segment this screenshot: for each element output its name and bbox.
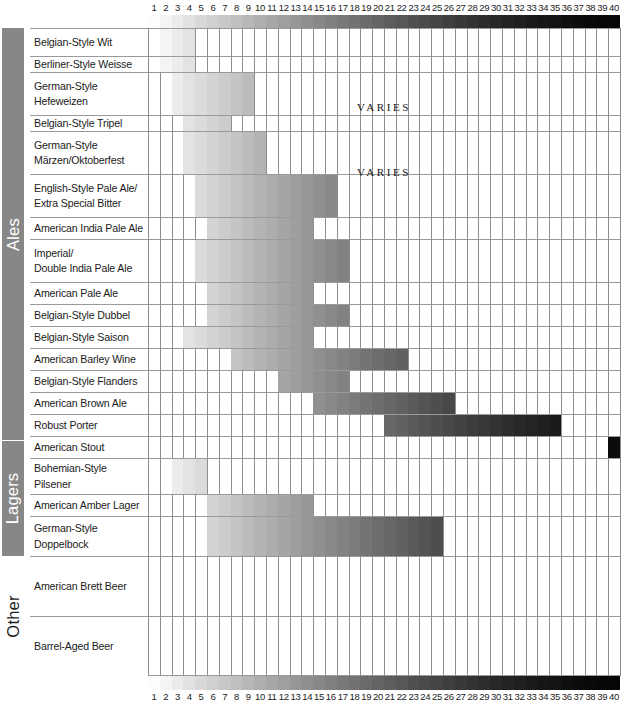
bar-segment-american-amber-lager-srm-13 (290, 495, 301, 516)
srm-swatch-32 (514, 676, 526, 690)
srm-swatch-21 (384, 15, 396, 28)
srm-swatch-26 (443, 15, 455, 28)
axis-tick-7: 7 (219, 1, 231, 15)
row-label-line1-american-stout: American Stout (34, 440, 104, 456)
bar-segment-belgian-style-dubbel-srm-10 (254, 305, 266, 326)
axis-tick-22: 22 (396, 690, 408, 704)
bar-segment-american-stout-srm-40 (608, 437, 620, 458)
bar-segment-belgian-style-dubbel-srm-11 (266, 305, 278, 326)
row-label-text-american-barley-wine: American Barley Wine (34, 352, 136, 368)
srm-swatch-14 (301, 676, 313, 690)
srm-swatch-40 (608, 676, 620, 690)
axis-tick-9: 9 (242, 690, 254, 704)
bar-segment-berliner-style-weisse-srm-3 (172, 57, 183, 72)
axis-tick-6: 6 (207, 1, 219, 15)
axis-tick-5: 5 (195, 690, 207, 704)
srm-swatch-3 (172, 15, 184, 28)
srm-gradient-strip-top (148, 15, 620, 28)
bar-segment-american-brown-ale-srm-23 (408, 393, 419, 414)
srm-swatch-21 (384, 676, 396, 690)
bar-segment-american-pale-ale-srm-12 (278, 283, 290, 304)
bar-segment-belgian-style-flanders-srm-15 (313, 371, 325, 392)
srm-swatch-4 (183, 15, 195, 28)
bar-segment-belgian-style-saison-srm-11 (266, 327, 278, 348)
gridline-v-34 (549, 28, 550, 676)
bar-segment-english-style-pale-ale-extra-special-bitter-srm-10 (254, 175, 266, 217)
bar-segment-american-pale-ale-srm-8 (231, 283, 242, 304)
gridline-v-39 (608, 28, 609, 676)
bar-segment-american-brown-ale-srm-20 (372, 393, 384, 414)
srm-swatch-1 (148, 15, 160, 28)
srm-swatch-24 (419, 676, 431, 690)
bar-segment-american-brown-ale-srm-18 (349, 393, 360, 414)
axis-tick-5: 5 (195, 1, 207, 15)
axis-tick-16: 16 (325, 1, 337, 15)
bar-segment-robust-porter-srm-33 (526, 415, 537, 436)
srm-swatch-6 (207, 15, 219, 28)
bar-segment-american-pale-ale-srm-14 (301, 283, 313, 304)
bar-segment-imperial-double-india-pale-ale-srm-9 (242, 240, 254, 282)
row-label-line1-american-india-pale-ale: American India Pale Ale (34, 221, 143, 237)
srm-swatch-35 (549, 15, 561, 28)
bar-segment-belgian-style-wit-srm-4 (183, 29, 195, 56)
row-label-line1-barrel-aged-beer: Barrel-Aged Beer (34, 639, 113, 655)
bar-segment-belgian-style-dubbel-srm-8 (231, 305, 242, 326)
srm-swatch-31 (502, 676, 514, 690)
row-label-line2-bohemian-style-pilsener: Pilsener (34, 477, 107, 493)
gridline-v-36 (573, 28, 574, 676)
srm-swatch-35 (549, 676, 561, 690)
bar-segment-american-amber-lager-srm-8 (231, 495, 242, 516)
srm-swatch-20 (372, 15, 384, 28)
bar-segment-belgian-style-dubbel-srm-13 (290, 305, 301, 326)
bar-segment-imperial-double-india-pale-ale-srm-13 (290, 240, 301, 282)
bar-segment-belgian-style-saison-srm-8 (231, 327, 242, 348)
row-label-german-style-doppelbock: German-StyleDoppelbock (30, 516, 148, 556)
axis-tick-12: 12 (278, 690, 290, 704)
bar-segment-american-india-pale-ale-srm-9 (242, 218, 254, 239)
srm-swatch-9 (242, 676, 254, 690)
row-label-belgian-style-dubbel: Belgian-Style Dubbel (30, 304, 148, 326)
bar-segment-american-barley-wine-srm-8 (231, 349, 242, 370)
srm-swatch-27 (455, 15, 467, 28)
axis-tick-21: 21 (384, 1, 396, 15)
bar-segment-robust-porter-srm-29 (478, 415, 490, 436)
bar-segment-belgian-style-flanders-srm-16 (325, 371, 337, 392)
srm-swatch-38 (584, 15, 596, 28)
bar-segment-american-barley-wine-srm-22 (396, 349, 408, 370)
bar-segment-english-style-pale-ale-extra-special-bitter-srm-9 (242, 175, 254, 217)
bar-segment-belgian-style-saison-srm-7 (219, 327, 231, 348)
gridline-v-32 (526, 28, 527, 676)
axis-tick-36: 36 (561, 690, 573, 704)
bar-segment-belgian-style-wit-srm-3 (172, 29, 183, 56)
srm-beer-color-chart: 1234567891011121314151617181920212223242… (0, 0, 624, 704)
srm-swatch-11 (266, 676, 278, 690)
bar-segment-robust-porter-srm-35 (549, 415, 561, 436)
srm-swatch-8 (231, 15, 243, 28)
row-label-text-berliner-style-weisse: Berliner-Style Weisse (34, 57, 132, 73)
axis-tick-30: 30 (490, 1, 502, 15)
bar-segment-belgian-style-dubbel-srm-16 (325, 305, 337, 326)
row-label-line2-imperial-double-india-pale-ale: Double India Pale Ale (34, 261, 132, 277)
row-label-line1-robust-porter: Robust Porter (34, 418, 97, 434)
bar-segment-american-brown-ale-srm-22 (396, 393, 408, 414)
bar-segment-robust-porter-srm-21 (384, 415, 396, 436)
row-label-line1-belgian-style-tripel: Belgian-Style Tripel (34, 116, 122, 132)
srm-swatch-27 (455, 676, 467, 690)
bar-segment-imperial-double-india-pale-ale-srm-15 (313, 240, 325, 282)
bar-segment-american-india-pale-ale-srm-10 (254, 218, 266, 239)
axis-tick-16: 16 (325, 690, 337, 704)
bar-segment-robust-porter-srm-28 (467, 415, 478, 436)
varies-label-barrel-aged: VARIES (148, 166, 620, 178)
bar-segment-imperial-double-india-pale-ale-srm-12 (278, 240, 290, 282)
bar-segment-american-india-pale-ale-srm-8 (231, 218, 242, 239)
bar-segment-bohemian-style-pilsener-srm-5 (195, 459, 207, 494)
srm-gradient-strip-bottom (148, 676, 620, 690)
bar-segment-german-style-doppelbock-srm-25 (431, 517, 443, 556)
gridline-v-24 (431, 28, 432, 676)
bar-segment-american-barley-wine-srm-14 (301, 349, 313, 370)
bar-segment-german-style-doppelbock-srm-8 (231, 517, 242, 556)
axis-tick-38: 38 (584, 690, 596, 704)
bar-segment-imperial-double-india-pale-ale-srm-16 (325, 240, 337, 282)
row-label-barrel-aged-beer: Barrel-Aged Beer (30, 616, 148, 676)
gridline-v-29 (490, 28, 491, 676)
